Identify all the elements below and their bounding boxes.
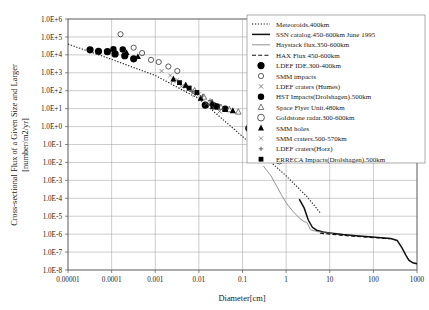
y-tick-label: 1.0E-8 bbox=[43, 267, 63, 275]
y-tick-label: 1.0E-6 bbox=[43, 231, 63, 239]
series-2 bbox=[263, 166, 333, 234]
x-axis-title: Diameter[cm] bbox=[219, 294, 266, 303]
y-tick-label: 1.0E-7 bbox=[43, 249, 63, 257]
x-tick-label: 0.01 bbox=[193, 276, 206, 284]
legend-label: HST Impacts(Drolshagen).500km bbox=[276, 93, 372, 101]
x-tick-label: 0.001 bbox=[147, 276, 164, 284]
y-tick-label: 1.0E+2 bbox=[41, 87, 62, 95]
x-tick-label: 1 bbox=[284, 276, 288, 284]
legend-label: Goldstone radar.300-600km bbox=[276, 114, 355, 122]
legend-label: LDEF craters (Humes) bbox=[276, 83, 341, 91]
y-tick-label: 1.0E+1 bbox=[41, 105, 62, 113]
legend-label: SMM impacts bbox=[276, 73, 316, 81]
chart-canvas: 0.000010.00010.0010.010.11101001000 1.0E… bbox=[0, 0, 429, 310]
chart-legend: Meteoroids.400kmSSN catalog.450-600km Ju… bbox=[247, 15, 425, 164]
y-tick-label: 1.0E+4 bbox=[41, 51, 62, 59]
y-tick-label: 1.0E-2 bbox=[43, 159, 63, 167]
legend-label: ERRECA Impacts(Drolshagen).500km bbox=[276, 156, 386, 164]
y-tick-label: 1.0E-1 bbox=[43, 141, 63, 149]
y-tick-label: 1.0E+5 bbox=[41, 34, 62, 42]
legend-label: LDEF IDE.300-400km bbox=[276, 62, 341, 70]
legend-label: Haystack flux.350-600km bbox=[276, 41, 350, 49]
y-axis-tick-labels: 1.0E+61.0E+51.0E+41.0E+31.0E+21.0E+11.0E… bbox=[41, 16, 68, 275]
y-tick-label: 1.0E+3 bbox=[41, 69, 62, 77]
legend-label: LDEF craters(Horz) bbox=[276, 145, 333, 153]
x-tick-label: 1000 bbox=[410, 276, 425, 284]
x-tick-label: 0.0001 bbox=[102, 276, 122, 284]
x-tick-label: 10 bbox=[326, 276, 334, 284]
y-axis-title-line1: Cross-sectional Flux of a Given Size and… bbox=[10, 64, 19, 226]
legend-label: Space Flyer Unit.480km bbox=[276, 104, 345, 112]
y-tick-label: 1.0E-3 bbox=[43, 177, 63, 185]
x-tick-label: 100 bbox=[368, 276, 379, 284]
y-tick-label: 1.0E-5 bbox=[43, 213, 63, 221]
legend-label: HAX Flux 450-600km bbox=[276, 52, 340, 60]
legend-label: SSN catalog.450-600km June 1995 bbox=[276, 31, 376, 39]
x-tick-label: 0.00001 bbox=[56, 276, 80, 284]
legend-item[interactable]: ERRECA Impacts(Drolshagen).500km bbox=[259, 156, 386, 164]
x-tick-label: 0.1 bbox=[238, 276, 247, 284]
x-axis-tick-labels: 0.000010.00010.0010.010.11101001000 bbox=[56, 270, 424, 284]
legend-label: SMM craters.500-570km bbox=[276, 135, 347, 143]
y-tick-label: 1.0E+6 bbox=[41, 16, 62, 24]
y-tick-label: 1.0E+0 bbox=[41, 123, 62, 131]
legend-label: Meteoroids.400km bbox=[276, 21, 330, 29]
y-tick-label: 1.0E-4 bbox=[43, 195, 63, 203]
y-axis-title-line2: [number/m2/yr] bbox=[21, 118, 30, 172]
flux-vs-diameter-chart: 0.000010.00010.0010.010.11101001000 1.0E… bbox=[0, 0, 429, 310]
legend-label: SMM holes bbox=[276, 125, 309, 133]
